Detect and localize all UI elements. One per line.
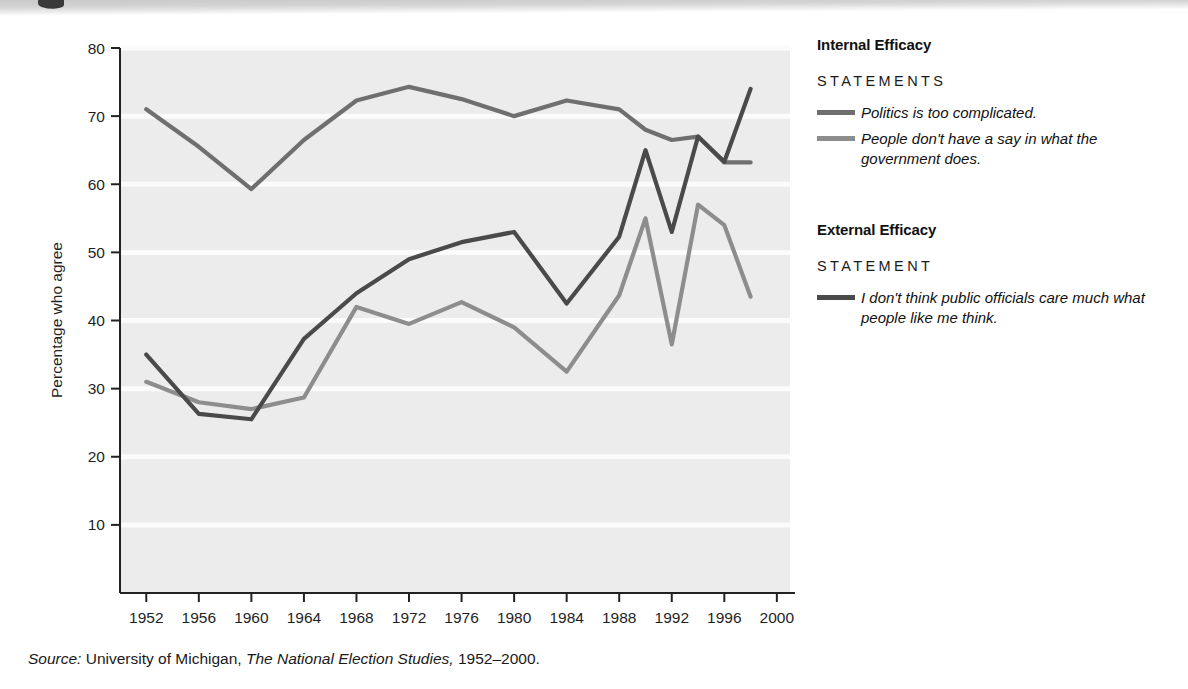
y-tick-label: 10 <box>88 516 106 533</box>
x-tick-label: 1984 <box>549 609 584 626</box>
source-note: Source: University of Michigan, The Nati… <box>28 650 540 668</box>
source-org: University of Michigan, <box>81 650 246 667</box>
legend-line-swatch-icon <box>817 295 855 300</box>
legend-group-external: External Efficacy STATEMENT I don't thin… <box>817 221 1177 328</box>
x-tick-label: 1996 <box>707 609 741 626</box>
x-tick-label: 1956 <box>182 609 216 626</box>
chart-plot-area: 1020304050607080 19521956196019641968197… <box>0 0 810 640</box>
legend-subheading-internal: STATEMENTS <box>817 73 1177 89</box>
figure-political-efficacy-chart: 1020304050607080 19521956196019641968197… <box>0 0 1188 689</box>
y-tick-label: 70 <box>88 108 106 125</box>
legend-item: I don't think public officials care much… <box>817 288 1177 328</box>
x-tick-label: 1964 <box>287 609 322 626</box>
x-tick-label: 1960 <box>234 609 269 626</box>
legend-heading-external: External Efficacy <box>817 221 1177 238</box>
line-chart-svg: 1020304050607080 19521956196019641968197… <box>0 0 810 640</box>
chart-legend: Internal Efficacy STATEMENTS Politics is… <box>817 36 1177 334</box>
legend-item-label: I don't think public officials care much… <box>861 288 1161 328</box>
legend-spacer <box>817 175 1177 221</box>
y-tick-label: 50 <box>88 244 106 261</box>
legend-line-swatch-icon <box>817 136 855 141</box>
y-axis-title: Percentage who agree <box>48 242 65 398</box>
legend-subheading-external: STATEMENT <box>817 258 1177 274</box>
legend-item: People don't have a say in what the gove… <box>817 129 1177 169</box>
x-tick-label: 1968 <box>339 609 373 626</box>
y-tick-label: 60 <box>88 176 106 193</box>
y-tick-label: 20 <box>88 448 106 465</box>
legend-line-swatch-icon <box>817 110 855 115</box>
y-tick-label: 80 <box>88 40 106 57</box>
x-tick-label: 1980 <box>497 609 532 626</box>
x-tick-label: 1972 <box>392 609 426 626</box>
source-publication: The National Election Studies, <box>246 650 454 667</box>
legend-item-label: People don't have a say in what the gove… <box>861 129 1161 169</box>
source-years: 1952–2000. <box>454 650 540 667</box>
y-axis-ticks: 1020304050607080 <box>88 40 120 534</box>
y-tick-label: 40 <box>88 312 106 329</box>
legend-item-label: Politics is too complicated. <box>861 103 1037 123</box>
legend-group-internal: Internal Efficacy STATEMENTS Politics is… <box>817 36 1177 169</box>
x-tick-label: 1952 <box>129 609 163 626</box>
x-tick-label: 1976 <box>444 609 478 626</box>
y-tick-label: 30 <box>88 380 106 397</box>
source-prefix: Source: <box>28 650 81 667</box>
x-axis-ticks: 1952195619601964196819721976198019841988… <box>129 593 794 626</box>
legend-heading-internal: Internal Efficacy <box>817 36 1177 53</box>
x-tick-label: 2000 <box>760 609 795 626</box>
x-tick-label: 1988 <box>602 609 636 626</box>
legend-item: Politics is too complicated. <box>817 103 1177 123</box>
x-tick-label: 1992 <box>655 609 689 626</box>
